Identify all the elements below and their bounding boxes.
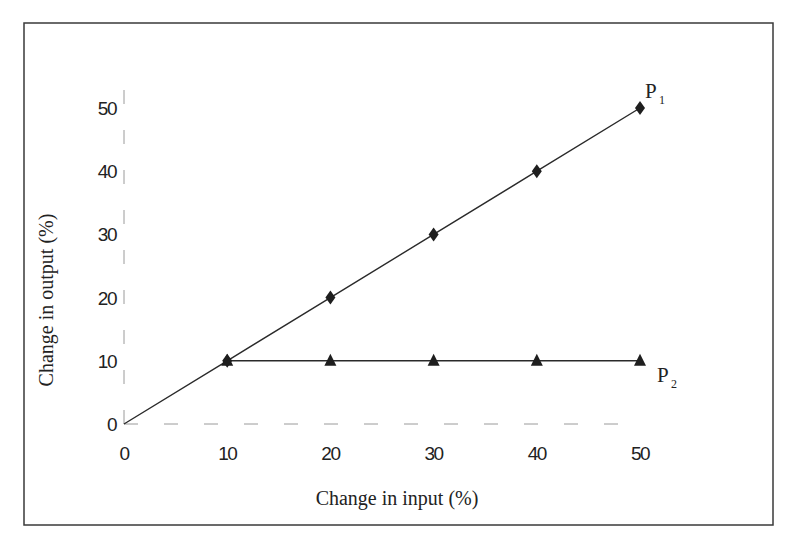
svg-text:P: P xyxy=(657,363,669,387)
series-line-p1 xyxy=(124,108,640,424)
x-tick-label: 40 xyxy=(528,443,547,464)
y-tick-label: 30 xyxy=(98,224,117,245)
x-tick-label: 0 xyxy=(119,443,129,464)
x-tick-label: 50 xyxy=(631,443,650,464)
y-tick-label: 10 xyxy=(98,351,117,372)
diamond-marker xyxy=(429,227,439,241)
series-label-p1: P1 xyxy=(645,79,665,107)
line-chart: 0102030405001020304050 P1P2 Change in in… xyxy=(0,0,792,554)
svg-text:P: P xyxy=(645,79,657,103)
diamond-marker xyxy=(635,101,645,115)
y-tick-label: 0 xyxy=(107,414,117,435)
x-axis-title: Change in input (%) xyxy=(316,487,479,510)
diamond-marker xyxy=(532,164,542,178)
triangle-marker xyxy=(324,354,336,366)
y-axis-title: Change in output (%) xyxy=(35,214,58,387)
svg-text:1: 1 xyxy=(659,93,665,107)
data-markers xyxy=(221,101,646,368)
series-label-p2: P2 xyxy=(657,363,677,391)
x-tick-label: 20 xyxy=(321,443,340,464)
y-tick-label: 40 xyxy=(98,161,117,182)
triangle-marker xyxy=(634,354,646,366)
triangle-marker xyxy=(428,354,440,366)
x-tick-label: 30 xyxy=(425,443,444,464)
x-tick-label: 10 xyxy=(218,443,237,464)
y-tick-label: 50 xyxy=(98,98,117,119)
svg-text:2: 2 xyxy=(671,377,677,391)
triangle-marker xyxy=(531,354,543,366)
series-labels: P1P2 xyxy=(645,79,677,391)
axes xyxy=(124,88,640,424)
diamond-marker xyxy=(325,291,335,305)
y-tick-label: 20 xyxy=(98,288,117,309)
series-lines xyxy=(124,108,640,424)
